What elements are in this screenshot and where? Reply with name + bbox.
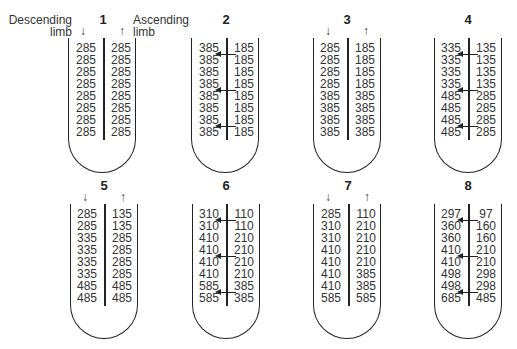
ascending-limb-values: 285285285285285285285285 bbox=[107, 42, 135, 138]
osmolarity-value: 185 bbox=[230, 126, 258, 138]
countercurrent-panel-2: 2385385385385385385385385185185185185185… bbox=[191, 38, 259, 174]
solute-flow-arrow-icon bbox=[460, 220, 478, 221]
solute-flow-arrow-icon bbox=[218, 292, 236, 293]
solute-flow-arrow-icon bbox=[460, 292, 478, 293]
descending-label-line2: limb bbox=[2, 26, 72, 38]
solute-flow-arrow-icon bbox=[218, 220, 236, 221]
countercurrent-panel-3: 3↓↑2852852852853853853853851851851851853… bbox=[313, 38, 381, 174]
limb-divider bbox=[347, 38, 349, 140]
osmolarity-value: 485 bbox=[472, 292, 500, 304]
osmolarity-value: 485 bbox=[108, 292, 136, 304]
up-arrow-icon: ↑ bbox=[360, 190, 374, 204]
up-arrow-icon: ↑ bbox=[116, 190, 130, 204]
panel-number: 5 bbox=[94, 178, 114, 193]
solute-flow-arrow-icon bbox=[218, 54, 236, 55]
solute-flow-arrow-icon bbox=[460, 126, 478, 127]
down-arrow-icon: ↓ bbox=[321, 24, 335, 38]
countercurrent-panel-7: 7↓↑2853103104104104104105851102102102102… bbox=[313, 204, 381, 340]
solute-flow-arrow-icon bbox=[460, 90, 478, 91]
osmolarity-value: 585 bbox=[352, 292, 380, 304]
osmolarity-value: 385 bbox=[351, 126, 379, 138]
osmolarity-value: 385 bbox=[316, 126, 344, 138]
down-arrow-icon: ↓ bbox=[76, 24, 90, 38]
descending-limb-values: 285285335335335335485485 bbox=[73, 208, 101, 304]
osmolarity-value: 285 bbox=[72, 126, 100, 138]
up-arrow-icon: ↑ bbox=[359, 24, 373, 38]
osmolarity-value: 585 bbox=[317, 292, 345, 304]
descending-limb-values: 285285285285285285285285 bbox=[72, 42, 100, 138]
ascending-limb-values: 110210210210210385385585 bbox=[352, 208, 380, 304]
ascending-limb-values: 185185185185385385385385 bbox=[351, 42, 379, 138]
panel-number: 4 bbox=[458, 12, 478, 27]
limb-divider bbox=[104, 204, 106, 306]
ascending-label-line2: limb bbox=[133, 26, 203, 38]
solute-flow-arrow-icon bbox=[460, 54, 478, 55]
down-arrow-icon: ↓ bbox=[78, 190, 92, 204]
descending-limb-values: 285310310410410410410585 bbox=[317, 208, 345, 304]
panel-number: 3 bbox=[337, 12, 357, 27]
osmolarity-value: 285 bbox=[472, 126, 500, 138]
panel-number: 7 bbox=[338, 178, 358, 193]
osmolarity-value: 285 bbox=[107, 126, 135, 138]
panel-number: 1 bbox=[93, 12, 113, 27]
countercurrent-panel-4: 4335335335335485485485485135135135135285… bbox=[434, 38, 502, 174]
panel-number: 8 bbox=[458, 178, 478, 193]
osmolarity-value: 485 bbox=[73, 292, 101, 304]
countercurrent-panel-5: 5↓↑2852853353353353354854851351352852852… bbox=[70, 204, 138, 340]
descending-limb-label: Descending limb bbox=[2, 14, 72, 38]
descending-limb-values: 285285285285385385385385 bbox=[316, 42, 344, 138]
countercurrent-panel-6: 6310310410410410410585585110110210210210… bbox=[192, 204, 260, 340]
panel-number: 6 bbox=[216, 178, 236, 193]
solute-flow-arrow-icon bbox=[218, 90, 236, 91]
limb-divider bbox=[103, 38, 105, 140]
solute-flow-arrow-icon bbox=[218, 256, 236, 257]
ascending-limb-values: 135135285285285285485485 bbox=[108, 208, 136, 304]
countercurrent-panel-8: 8297360360410410498498685971601602102102… bbox=[434, 204, 502, 340]
down-arrow-icon: ↓ bbox=[321, 190, 335, 204]
solute-flow-arrow-icon bbox=[218, 126, 236, 127]
up-arrow-icon: ↑ bbox=[115, 24, 129, 38]
panel-number: 2 bbox=[216, 12, 236, 27]
ascending-limb-label: Ascending limb bbox=[133, 14, 203, 38]
solute-flow-arrow-icon bbox=[460, 256, 478, 257]
osmolarity-value: 385 bbox=[230, 292, 258, 304]
countercurrent-panel-1: 1↓↑2852852852852852852852852852852852852… bbox=[68, 38, 136, 174]
limb-divider bbox=[348, 204, 350, 306]
